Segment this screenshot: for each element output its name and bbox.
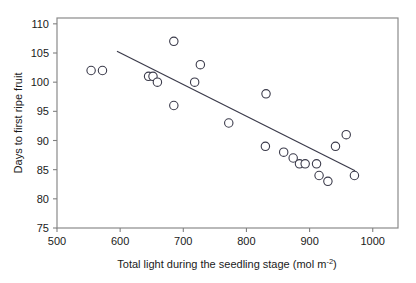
x-tick-label: 800 — [237, 235, 255, 247]
x-axis-title-main: Total light during the seedling stage (m… — [117, 258, 326, 270]
data-points — [87, 37, 359, 185]
y-tick-label: 80 — [37, 193, 49, 205]
data-point — [98, 66, 106, 74]
x-axis-title-text: Total light during the seedling stage (m… — [117, 257, 336, 270]
data-point — [331, 142, 339, 150]
x-tick-label: 600 — [111, 235, 129, 247]
data-point — [87, 66, 95, 74]
data-point — [170, 37, 178, 45]
y-tick-label: 105 — [31, 47, 49, 59]
chart-container: 7580859095100105110 5006007008009001000 … — [0, 0, 416, 283]
data-point — [280, 148, 288, 156]
y-axis-title-text: Days to first ripe fruit — [12, 73, 24, 174]
y-tick-label: 75 — [37, 222, 49, 234]
regression-line-segment — [117, 51, 355, 171]
data-point — [342, 130, 350, 138]
x-tick-label: 900 — [300, 235, 318, 247]
data-point — [324, 177, 332, 185]
data-point — [190, 78, 198, 86]
x-axis: 5006007008009001000 — [48, 228, 385, 247]
data-point — [312, 160, 320, 168]
data-point — [301, 160, 309, 168]
y-tick-label: 110 — [31, 18, 49, 30]
data-point — [261, 142, 269, 150]
data-point — [170, 101, 178, 109]
data-point — [196, 60, 204, 68]
data-point — [315, 171, 323, 179]
data-point — [225, 119, 233, 127]
y-tick-label: 95 — [37, 105, 49, 117]
y-tick-label: 90 — [37, 135, 49, 147]
y-axis-title: Days to first ripe fruit — [12, 73, 24, 174]
x-tick-label: 500 — [48, 235, 66, 247]
data-point — [153, 78, 161, 86]
data-point — [350, 171, 358, 179]
x-axis-title-superscript: -2 — [326, 257, 333, 266]
x-tick-label: 700 — [174, 235, 192, 247]
regression-line — [117, 51, 355, 171]
x-axis-title-tail: ) — [333, 258, 337, 270]
y-axis: 7580859095100105110 — [31, 18, 57, 234]
data-point — [262, 90, 270, 98]
x-tick-label: 1000 — [360, 235, 384, 247]
y-tick-label: 100 — [31, 76, 49, 88]
y-tick-label: 85 — [37, 164, 49, 176]
x-axis-title: Total light during the seedling stage (m… — [117, 257, 336, 270]
scatter-plot: 7580859095100105110 5006007008009001000 … — [0, 0, 416, 283]
